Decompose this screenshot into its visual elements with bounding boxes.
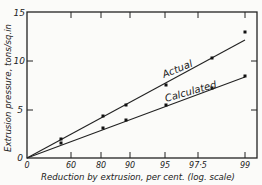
x-ticks [71, 12, 245, 158]
x-tick-60: 60 [66, 161, 76, 170]
x-tick-99: 99 [240, 161, 250, 170]
chart: 0 5 10 15 0 60 80 90 95 97·5 99 Reductio… [0, 0, 262, 185]
y-axis-label: Extrusion pressure, tons/sq.in [3, 24, 13, 152]
y-tick-15: 15 [14, 8, 26, 18]
x-tick-80: 80 [96, 161, 106, 170]
x-tick-95: 95 [160, 161, 170, 170]
actual-points [60, 31, 247, 141]
y-tick-0: 0 [17, 153, 23, 163]
y-tick-5: 5 [17, 105, 23, 115]
x-tick-97-5: 97·5 [189, 161, 207, 170]
x-tick-90: 90 [125, 161, 135, 170]
calculated-points [60, 75, 247, 145]
x-tick-0: 0 [24, 161, 29, 170]
y-tick-10: 10 [14, 56, 26, 66]
calculated-label: Calculated [164, 79, 219, 104]
x-axis-label: Reduction by extrusion, per cent. (log. … [41, 172, 235, 182]
